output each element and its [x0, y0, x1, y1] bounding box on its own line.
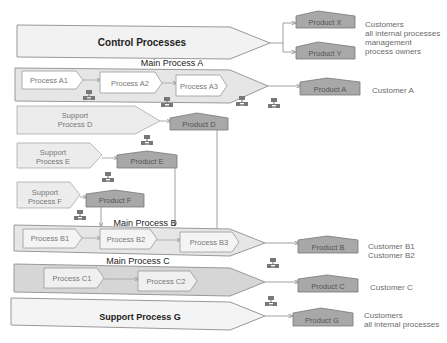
svg-text:Process B1: Process B1	[31, 234, 69, 243]
control-processes-chevron: Control Processes	[17, 25, 270, 59]
product-e: Product E	[117, 151, 177, 168]
svg-text:Support: Support	[40, 148, 67, 157]
svg-text:Process D: Process D	[58, 120, 93, 129]
support-process-g-label: Support Process G	[99, 312, 181, 322]
main-process-a-title: Main Process A	[141, 58, 204, 68]
svg-text:Product F: Product F	[99, 196, 132, 205]
svg-text:Process A3: Process A3	[180, 82, 218, 91]
svg-text:Product E: Product E	[131, 157, 164, 166]
svg-text:Process E: Process E	[36, 157, 70, 166]
svg-text:Process F: Process F	[28, 197, 62, 206]
customer-b-labels: Customer B1 Customer B2	[368, 242, 415, 260]
product-x: Product X	[296, 11, 355, 28]
product-b: Product B	[298, 236, 358, 253]
svg-text:Product B: Product B	[312, 243, 345, 252]
svg-text:Product D: Product D	[182, 120, 216, 129]
svg-text:Support: Support	[62, 111, 89, 120]
product-d: Product D	[170, 113, 228, 130]
customer-c-label: Customer C	[370, 283, 413, 292]
main-process-b-title: Main Process B	[113, 218, 176, 228]
product-y: Product Y	[296, 42, 355, 59]
svg-text:Product G: Product G	[305, 316, 339, 325]
svg-text:Process A2: Process A2	[111, 79, 149, 88]
control-customers: Customers all internal processes managem…	[365, 20, 440, 56]
svg-text:Product C: Product C	[311, 282, 345, 291]
svg-text:Process B2: Process B2	[107, 235, 145, 244]
product-g: Product G	[293, 308, 353, 326]
main-process-c-title: Main Process C	[106, 256, 170, 266]
svg-text:Process C2: Process C2	[147, 277, 186, 286]
svg-text:Product Y: Product Y	[309, 49, 342, 58]
product-f: Product F	[86, 190, 144, 207]
svg-text:Process A1: Process A1	[30, 76, 68, 85]
svg-text:Process C1: Process C1	[53, 274, 92, 283]
svg-text:Support: Support	[32, 188, 59, 197]
product-c: Product C	[298, 275, 358, 292]
svg-text:Process B3: Process B3	[190, 238, 228, 247]
svg-text:Product A: Product A	[314, 85, 347, 94]
control-processes-label: Control Processes	[98, 37, 187, 48]
customer-a-label: Customer A	[372, 86, 414, 95]
svg-text:Product X: Product X	[309, 18, 342, 27]
support-g-customers: Customers all internal processes	[364, 311, 439, 329]
product-a: Product A	[300, 78, 360, 95]
